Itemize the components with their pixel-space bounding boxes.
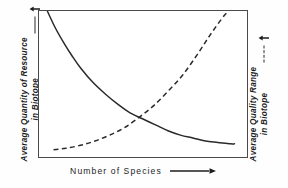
resource-quantity-curve [47,11,234,144]
up-arrow-icon [259,33,270,44]
right-axis-label: Average Quality Range in Biotope [249,4,270,162]
plot-area [38,10,248,158]
figure-container: Average Quantity of Resource in Biotope … [0,0,288,188]
solid-line-legend-icon [35,16,36,33]
right-arrow-icon [170,166,216,176]
plot-curves [39,11,247,157]
right-axis-legend-mark [259,33,270,63]
left-axis-label-line1: Average Quantity of Resource [20,37,31,161]
right-axis-label-text: Average Quality Range in Biotope [249,67,270,162]
right-axis-label-line2: in Biotope [259,93,270,136]
bottom-axis-label-text: Number of Species [70,166,162,176]
bottom-axis-label: Number of Species [38,166,248,176]
right-axis-label-line1: Average Quality Range [249,67,260,162]
dashed-line-legend-icon [264,46,265,63]
quality-range-curve [54,11,229,150]
